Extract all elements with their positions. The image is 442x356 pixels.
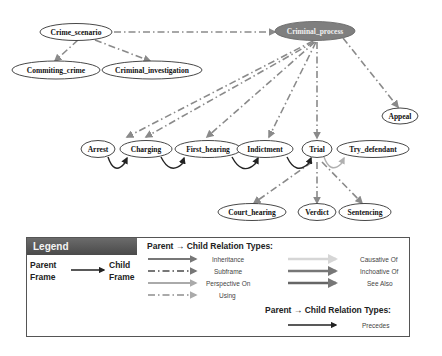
svg-text:Verdict: Verdict bbox=[305, 208, 329, 217]
svg-text:Charging: Charging bbox=[131, 145, 162, 154]
svg-text:Indictment: Indictment bbox=[247, 145, 283, 154]
svg-text:Crime_scenario: Crime_scenario bbox=[51, 28, 102, 37]
svg-text:Arrest: Arrest bbox=[88, 145, 109, 154]
edge-criminal-process-to-arrest bbox=[127, 41, 313, 137]
edge-trial-to-court-hearing bbox=[254, 162, 312, 203]
legend-label-using: Using bbox=[219, 292, 236, 299]
legend-arrows bbox=[26, 237, 410, 337]
node-indictment[interactable]: Indictment bbox=[237, 141, 293, 158]
node-criminal-process[interactable]: Criminal_process bbox=[275, 22, 355, 41]
svg-text:Criminal_investigation: Criminal_investigation bbox=[115, 66, 190, 75]
node-commiting-crime[interactable]: Commiting_crime bbox=[12, 61, 100, 79]
edge-arrest-precedes-charging bbox=[108, 157, 127, 168]
svg-text:Trial: Trial bbox=[309, 145, 325, 154]
edge-criminal-process-to-appeal bbox=[343, 38, 398, 107]
node-sentencing[interactable]: Sentencing bbox=[339, 204, 391, 221]
node-try-defendant[interactable]: Try_defendant bbox=[337, 141, 409, 158]
edge-crime-scenario-to-commiting-crime bbox=[55, 40, 78, 61]
node-charging[interactable]: Charging bbox=[120, 141, 172, 158]
legend-label-see-also: See Also bbox=[367, 280, 393, 287]
edge-crime-scenario-to-criminal-investigation bbox=[95, 40, 150, 61]
edge-trial-to-sentencing bbox=[322, 162, 362, 203]
legend-box: Legend Parent Frame Child Frame Parent →… bbox=[26, 237, 410, 337]
legend-label-precedes: Precedes bbox=[362, 322, 389, 329]
legend-label-perspective-on: Perspective On bbox=[206, 280, 250, 287]
node-criminal-investigation[interactable]: Criminal_investigation bbox=[102, 61, 202, 79]
edge-indictment-precedes-trial bbox=[287, 157, 311, 168]
legend-label-causative-of: Causative Of bbox=[360, 256, 398, 263]
node-verdict[interactable]: Verdict bbox=[298, 204, 336, 221]
svg-text:Appeal: Appeal bbox=[389, 112, 412, 121]
svg-text:First_hearing: First_hearing bbox=[186, 145, 230, 154]
node-first-hearing[interactable]: First_hearing bbox=[175, 141, 241, 158]
node-court-hearing[interactable]: Court_hearing bbox=[218, 204, 286, 221]
svg-text:Try_defendant: Try_defendant bbox=[349, 145, 397, 154]
legend-label-inheritance: Inheritance bbox=[212, 256, 244, 263]
edge-first-hearing-precedes-indictment bbox=[232, 157, 258, 169]
edge-criminal-process-to-charging bbox=[146, 42, 314, 137]
svg-text:Commiting_crime: Commiting_crime bbox=[27, 66, 86, 75]
edge-criminal-process-to-indictment bbox=[269, 42, 316, 137]
legend-label-subframe: Subframe bbox=[214, 268, 242, 275]
svg-text:Court_hearing: Court_hearing bbox=[228, 208, 276, 217]
edge-charging-precedes-first-hearing bbox=[161, 157, 184, 168]
node-crime-scenario[interactable]: Crime_scenario bbox=[40, 24, 112, 41]
svg-text:Criminal_process: Criminal_process bbox=[287, 27, 344, 36]
edge-criminal-process-to-first-hearing bbox=[207, 42, 315, 137]
node-arrest[interactable]: Arrest bbox=[81, 141, 115, 158]
node-trial[interactable]: Trial bbox=[302, 141, 332, 158]
node-appeal[interactable]: Appeal bbox=[382, 108, 418, 124]
legend-label-inchoative-of: Inchoative Of bbox=[360, 268, 398, 275]
svg-text:Sentencing: Sentencing bbox=[347, 208, 382, 217]
